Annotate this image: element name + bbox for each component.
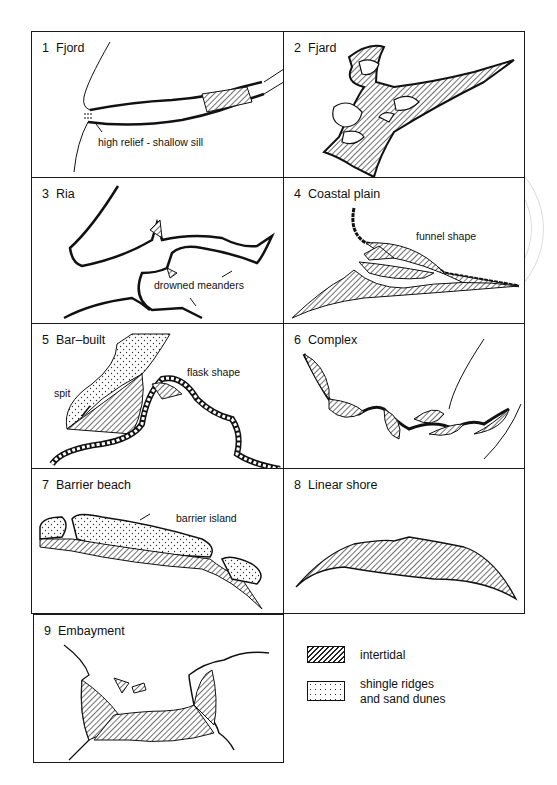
annotation-drowned-meanders: drowned meanders: [154, 279, 244, 291]
legend-swatch-intertidal: [307, 646, 345, 663]
panel-fjord: 1 Fjord high relief - shallow sill: [31, 31, 284, 178]
legend-swatch-dunes: [307, 681, 345, 701]
annotation-spit: spit: [54, 387, 70, 399]
annotation-barrier-island: barrier island: [176, 512, 237, 524]
panel-fjard: 2 Fjard: [283, 31, 525, 178]
annotation-sill: high relief - shallow sill: [98, 136, 203, 148]
ria-drawing: [32, 178, 285, 325]
panel-ria: 3 Ria drowned meanders: [31, 177, 284, 324]
coastal-plain-drawing: [284, 178, 526, 325]
fjard-drawing: [284, 32, 526, 179]
complex-drawing: [284, 324, 526, 470]
fjord-drawing: [32, 32, 285, 179]
panel-barrier-beach: 7 Barrier beach barrier island: [31, 468, 284, 614]
panel-linear-shore: 8 Linear shore: [283, 468, 525, 614]
legend-label-intertidal: intertidal: [360, 648, 405, 663]
linear-shore-drawing: [284, 469, 526, 615]
panel-complex: 6 Complex: [283, 323, 525, 469]
panel-bar-built: 5 Bar–built flask shape spit: [31, 323, 284, 469]
embayment-drawing: [34, 615, 285, 764]
annotation-flask-shape: flask shape: [187, 366, 240, 378]
legend-label-dunes-line1: shingle ridges: [360, 677, 434, 692]
barrier-beach-drawing: [32, 469, 285, 615]
legend-label-dunes-line2: and sand dunes: [360, 692, 445, 707]
panel-embayment: 9 Embayment: [33, 614, 284, 763]
annotation-funnel-shape: funnel shape: [416, 230, 476, 242]
panel-coastal-plain: 4 Coastal plain funnel shape: [283, 177, 525, 324]
